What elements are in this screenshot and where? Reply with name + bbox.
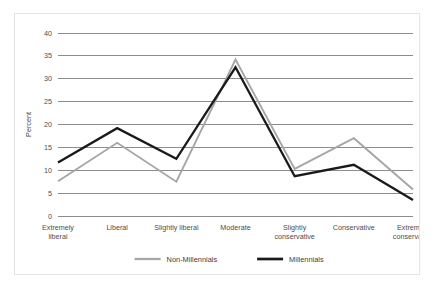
y-tick-label: 25 (44, 97, 52, 106)
y-tick-label: 20 (44, 120, 52, 129)
x-category-label: Slightly liberal (154, 223, 199, 232)
chart-figure: 0510152025303540 ExtremelyliberalLiberal… (14, 13, 420, 275)
legend-label: Non-Millennials (167, 255, 218, 264)
y-tick-label: 40 (44, 29, 52, 38)
x-category-label: conservative (393, 232, 419, 241)
x-category-label: Extremely (42, 223, 74, 232)
y-tick-label: 30 (44, 74, 52, 83)
x-category-label: Moderate (220, 223, 250, 232)
x-category-label: liberal (48, 232, 68, 241)
y-axis-title: Percent (24, 112, 33, 137)
y-axis-tick-labels: 0510152025303540 (44, 29, 52, 221)
x-category-label: Liberal (106, 223, 128, 232)
x-category-label: conservative (274, 232, 314, 241)
y-tick-label: 10 (44, 166, 52, 175)
legend-label: Millennials (289, 255, 324, 264)
x-category-label: Conservative (333, 223, 375, 232)
y-tick-label: 0 (48, 212, 52, 221)
series-line-millennials (58, 67, 413, 200)
x-axis-category-labels: ExtremelyliberalLiberalSlightly liberalM… (42, 223, 419, 241)
y-tick-label: 5 (48, 189, 52, 198)
y-axis-title-text: Percent (24, 112, 33, 137)
y-tick-label: 15 (44, 143, 52, 152)
y-tick-label: 35 (44, 51, 52, 60)
series-group (58, 60, 413, 200)
x-category-label: Extremely (397, 223, 419, 232)
line-chart: 0510152025303540 ExtremelyliberalLiberal… (15, 14, 419, 274)
chart-legend: Non-MillennialsMillennials (135, 255, 324, 264)
x-category-label: Slightly (283, 223, 307, 232)
